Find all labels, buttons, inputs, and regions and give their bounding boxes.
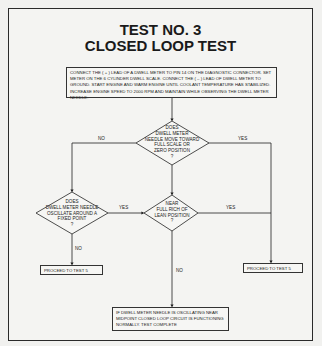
start-instruction-box: CONNECT THE ( + ) LEAD OF A DWELL METER … bbox=[66, 67, 277, 98]
edge-label-d3-no: NO bbox=[176, 268, 183, 273]
outcome-test-complete: IF DWELL METER NEEDLE IS OSCILLATING NEA… bbox=[112, 307, 229, 331]
edge-label-d2-yes: YES bbox=[119, 205, 128, 210]
decision-needle-oscillate: DOES DWELL METER NEEDLE OSCILLATE AROUND… bbox=[42, 199, 102, 228]
decision-text-line: ? bbox=[147, 218, 197, 224]
edge-label-d1-yes: YES bbox=[238, 136, 247, 141]
decision-needle-full-or-zero: DOES DWELL METER NEEDLE MOVE TOWARD FULL… bbox=[142, 125, 202, 160]
outcome-proceed-left-text: PROCEED TO TEST 5 bbox=[44, 268, 88, 273]
flowchart-connectors bbox=[0, 0, 322, 346]
start-instruction-text: CONNECT THE ( + ) LEAD OF A DWELL METER … bbox=[70, 70, 271, 100]
edge-label-d2-no: NO bbox=[75, 246, 82, 251]
outcome-proceed-right-text: PROCEED TO TEST 5 bbox=[247, 266, 291, 271]
outcome-proceed-right: PROCEED TO TEST 5 bbox=[243, 263, 303, 273]
outcome-test-complete-text: IF DWELL METER NEEDLE IS OSCILLATING NEA… bbox=[116, 310, 224, 327]
decision-text-line: ? bbox=[42, 222, 102, 228]
edge-label-d3-yes: YES bbox=[226, 205, 235, 210]
decision-near-rich-or-lean: NEAR FULL RICH OF LEAN POSITION ? bbox=[147, 201, 197, 224]
decision-text-line: ? bbox=[142, 154, 202, 160]
decision-text-line: DWELL METER NEEDLE bbox=[42, 205, 102, 211]
outcome-proceed-left: PROCEED TO TEST 5 bbox=[40, 265, 103, 275]
edge-label-d1-no: NO bbox=[98, 136, 105, 141]
